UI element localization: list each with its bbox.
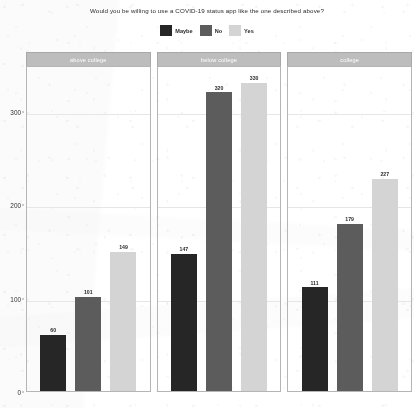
- bar-value-label: 147: [180, 246, 189, 252]
- bar-slot-maybe[interactable]: 60: [40, 67, 66, 391]
- bar-value-label: 111: [310, 280, 318, 286]
- bar-slot-yes[interactable]: 149: [110, 67, 136, 391]
- chart-plot-area: 0100200300 above college60101149below co…: [0, 0, 414, 408]
- bar-value-label: 330: [250, 75, 259, 81]
- facet-panel-header-label: below college: [201, 57, 237, 63]
- bar-value-label: 60: [50, 327, 56, 333]
- bar-maybe[interactable]: [171, 254, 197, 391]
- facet-panel-body: 60101149: [26, 66, 151, 392]
- bar-no[interactable]: [75, 297, 101, 391]
- bar-group: 111179227: [288, 67, 411, 391]
- bar-slot-yes[interactable]: 330: [241, 67, 267, 391]
- facet-panel-header: below college: [157, 52, 282, 66]
- bar-value-label: 101: [84, 289, 93, 295]
- bar-yes[interactable]: [241, 83, 267, 391]
- bar-value-label: 179: [345, 216, 354, 222]
- facet-panel-header: college: [287, 52, 412, 66]
- facet-panel-header-label: college: [340, 57, 359, 63]
- y-axis-tick-mark: [22, 298, 24, 299]
- bar-no[interactable]: [337, 224, 363, 391]
- bar-value-label: 149: [119, 244, 128, 250]
- bar-maybe[interactable]: [40, 335, 66, 391]
- bar-slot-yes[interactable]: 227: [372, 67, 398, 391]
- bar-yes[interactable]: [110, 252, 136, 391]
- facet-panel-above-college: above college60101149: [26, 52, 151, 392]
- bar-group: 147320330: [158, 67, 281, 391]
- y-axis-tick-label: 200: [10, 202, 21, 209]
- facet-panels: above college60101149below college147320…: [26, 52, 412, 392]
- facet-panel-college: college111179227: [287, 52, 412, 392]
- y-axis-tick-label: 300: [10, 108, 21, 115]
- bar-yes[interactable]: [372, 179, 398, 391]
- bar-group: 60101149: [27, 67, 150, 391]
- bar-slot-maybe[interactable]: 111: [302, 67, 328, 391]
- bar-value-label: 320: [215, 85, 224, 91]
- y-axis-tick-mark: [22, 392, 24, 393]
- bar-maybe[interactable]: [302, 287, 328, 391]
- facet-panel-body: 111179227: [287, 66, 412, 392]
- bar-slot-no[interactable]: 320: [206, 67, 232, 391]
- facet-panel-body: 147320330: [157, 66, 282, 392]
- y-axis-tick-label: 0: [17, 389, 21, 396]
- bar-no[interactable]: [206, 92, 232, 391]
- bar-slot-no[interactable]: 101: [75, 67, 101, 391]
- bar-slot-maybe[interactable]: 147: [171, 67, 197, 391]
- facet-panel-below-college: below college147320330: [157, 52, 282, 392]
- facet-panel-header-label: above college: [70, 57, 106, 63]
- facet-panel-header: above college: [26, 52, 151, 66]
- y-axis: 0100200300: [0, 65, 24, 392]
- bar-value-label: 227: [380, 171, 389, 177]
- bar-slot-no[interactable]: 179: [337, 67, 363, 391]
- y-axis-tick-mark: [22, 111, 24, 112]
- y-axis-tick-label: 100: [10, 295, 21, 302]
- y-axis-tick-mark: [22, 205, 24, 206]
